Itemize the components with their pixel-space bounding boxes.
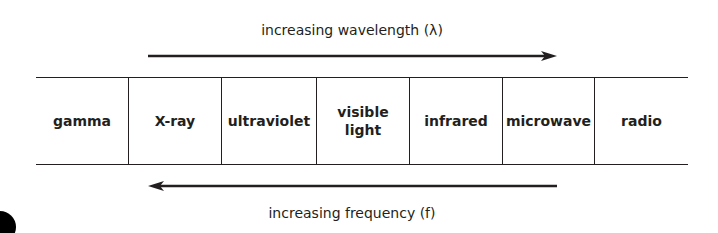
band-label: microwave (506, 112, 591, 130)
frequency-caption: increasing frequency (f) (0, 205, 711, 221)
band-visible-light: visible light (317, 78, 409, 164)
band-label: radio (621, 112, 662, 130)
band-ultraviolet: ultraviolet (222, 78, 316, 164)
band-infrared: infrared (410, 78, 502, 164)
band-gamma: gamma (36, 78, 128, 164)
frequency-arrow-left-icon (148, 180, 557, 192)
wavelength-arrow-right-icon (148, 50, 557, 62)
band-radio: radio (595, 78, 688, 164)
band-label: infrared (424, 112, 488, 130)
wavelength-caption: increasing wavelength (λ) (0, 22, 711, 38)
band-label-line1: visible (337, 103, 388, 121)
band-microwave: microwave (503, 78, 594, 164)
band-label: gamma (53, 112, 111, 130)
band-label-line2: light (345, 121, 381, 139)
band-label: ultraviolet (228, 112, 310, 130)
band-x-ray: X-ray (129, 78, 221, 164)
band-label: X-ray (155, 112, 196, 130)
spectrum-bottom-border (36, 164, 688, 165)
